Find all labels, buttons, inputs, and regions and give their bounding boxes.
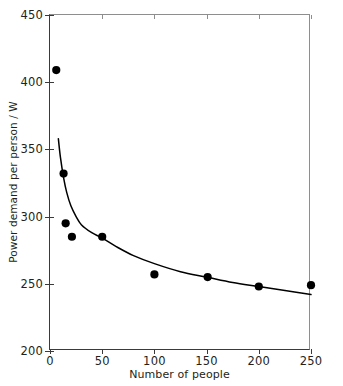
data-point: [150, 270, 158, 278]
x-axis-tick-inner: [102, 15, 103, 19]
data-point: [52, 66, 60, 74]
data-point: [62, 219, 70, 227]
y-axis-tick-label: 450: [20, 8, 43, 22]
x-axis-tick-label: 50: [95, 354, 110, 368]
y-axis-tick-label: 300: [20, 210, 43, 224]
data-point: [204, 273, 212, 281]
fit-curve: [58, 139, 311, 295]
y-axis-tick-label: 200: [20, 344, 43, 358]
data-layer: [50, 15, 311, 351]
data-point: [68, 233, 76, 241]
data-point: [255, 282, 263, 290]
plot-area: 200250300350400450050100150200250: [49, 14, 310, 350]
x-axis-title: Number of people: [49, 368, 310, 381]
x-axis-tick-inner: [311, 15, 312, 19]
y-axis-tick-inner: [50, 149, 54, 150]
x-axis-tick-label: 200: [248, 354, 271, 368]
y-axis-tick-inner: [50, 82, 54, 83]
chart-figure: Power demand per person / W 200250300350…: [0, 0, 343, 386]
x-axis-tick-inner: [207, 15, 208, 19]
x-axis-tick-inner: [154, 15, 155, 19]
y-axis-title: Power demand per person / W: [6, 14, 20, 350]
y-axis-tick-inner: [50, 15, 54, 16]
data-point: [307, 281, 315, 289]
x-axis-tick-label: 150: [195, 354, 218, 368]
y-axis-tick-inner: [50, 284, 54, 285]
y-axis-tick-inner: [50, 217, 54, 218]
x-axis-tick-label: 100: [143, 354, 166, 368]
data-point: [98, 233, 106, 241]
data-point: [59, 169, 67, 177]
x-axis-tick-label: 0: [46, 354, 54, 368]
y-axis-title-text: Power demand per person / W: [7, 101, 19, 263]
y-axis-tick-label: 400: [20, 75, 43, 89]
y-axis-tick-label: 350: [20, 142, 43, 156]
x-axis-tick-label: 250: [300, 354, 323, 368]
x-axis-tick-inner: [259, 15, 260, 19]
y-axis-tick-label: 250: [20, 277, 43, 291]
